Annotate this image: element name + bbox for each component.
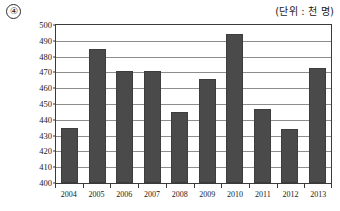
x-tick-label-2008: 2008 [166, 184, 194, 208]
x-tick-text: 2009 [199, 190, 215, 199]
bar-chart-figure: ④ (단위 : 천 명) 400410420430440450460470480… [0, 0, 340, 211]
x-tick-text: 2013 [310, 190, 326, 199]
x-tick-label-2007: 2007 [138, 184, 166, 208]
bar-cell [139, 25, 167, 183]
y-tick-label: 470 [39, 67, 52, 77]
item-number-badge: ④ [6, 4, 21, 19]
x-tick-label-2009: 2009 [194, 184, 222, 208]
bar-cell [111, 25, 139, 183]
x-tick-label-2012: 2012 [277, 184, 305, 208]
bar-2008 [171, 112, 188, 183]
y-tick-label: 400 [39, 178, 52, 188]
x-tick-text: 2004 [61, 190, 77, 199]
x-tick-label-2005: 2005 [83, 184, 111, 208]
x-tick-mark [249, 184, 250, 188]
x-tick-label-2006: 2006 [110, 184, 138, 208]
bar-2005 [89, 49, 106, 183]
bar-2009 [199, 79, 216, 183]
bar-cell [166, 25, 194, 183]
bar-cell [304, 25, 332, 183]
x-tick-label-2010: 2010 [221, 184, 249, 208]
bar-cell [56, 25, 84, 183]
x-tick-mark [304, 184, 305, 188]
x-tick-label-2004: 2004 [55, 184, 83, 208]
x-tick-text: 2007 [144, 190, 160, 199]
x-tick-label-2011: 2011 [249, 184, 277, 208]
bar-cell [276, 25, 304, 183]
bar-cell [221, 25, 249, 183]
y-tick-label: 460 [39, 83, 52, 93]
x-tick-mark [138, 184, 139, 188]
x-tick-text: 2011 [255, 190, 271, 199]
y-tick-label: 420 [39, 146, 52, 156]
unit-label: (단위 : 천 명) [275, 3, 334, 18]
bar-2007 [144, 71, 161, 183]
x-tick-mark [277, 184, 278, 188]
bar-cell [194, 25, 222, 183]
bar-2004 [61, 128, 78, 183]
y-tick-label: 480 [39, 52, 52, 62]
x-tick-text: 2008 [172, 190, 188, 199]
plot-area: 400410420430440450460470480490500 [55, 24, 332, 184]
bar-2013 [309, 68, 326, 183]
y-tick-label: 410 [39, 162, 52, 172]
x-tick-mark [194, 184, 195, 188]
x-tick-mark [331, 184, 332, 188]
chart-header: ④ (단위 : 천 명) [0, 0, 340, 22]
x-tick-mark [221, 184, 222, 188]
x-tick-mark [55, 184, 56, 188]
bar-2012 [281, 129, 298, 183]
y-tick-label: 490 [39, 36, 52, 46]
y-tick-label: 450 [39, 99, 52, 109]
y-tick-label: 500 [39, 20, 52, 30]
x-tick-mark [166, 184, 167, 188]
x-tick-mark [83, 184, 84, 188]
x-tick-text: 2006 [116, 190, 132, 199]
x-axis: 2004200520062007200820092010201120122013 [55, 184, 332, 208]
bar-2006 [116, 71, 133, 183]
x-tick-mark [110, 184, 111, 188]
y-tick-label: 430 [39, 131, 52, 141]
bar-series [56, 25, 331, 183]
bar-2010 [226, 34, 243, 183]
bar-cell [249, 25, 277, 183]
y-tick-label: 440 [39, 115, 52, 125]
x-tick-text: 2010 [227, 190, 243, 199]
x-tick-text: 2012 [282, 190, 298, 199]
x-tick-text: 2005 [89, 190, 105, 199]
bar-cell [84, 25, 112, 183]
x-tick-label-2013: 2013 [304, 184, 332, 208]
bar-2011 [254, 109, 271, 183]
